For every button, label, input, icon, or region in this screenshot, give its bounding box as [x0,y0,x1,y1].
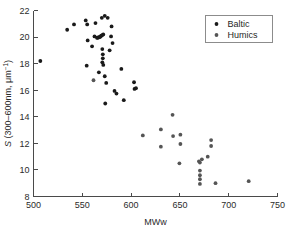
data-point [159,145,163,149]
data-point [209,144,213,148]
data-point [209,138,213,142]
data-point [103,102,107,106]
data-point [106,16,110,20]
caption-strip [0,234,296,242]
data-point [110,25,114,29]
data-point [85,64,89,68]
data-point [141,133,145,137]
data-point [200,157,204,161]
data-point [101,52,105,56]
y-tick-label: 14 [19,112,29,122]
data-point [111,41,115,45]
data-point [100,47,104,51]
series-baltic [38,14,137,105]
legend-marker-humics [215,33,219,37]
data-point [109,35,113,39]
figure-container: 500550600650700750810121416182022MWwS (3… [0,0,296,242]
data-point [92,78,96,82]
legend: BalticHumics [206,16,273,43]
data-point [198,173,202,177]
data-point [247,179,251,183]
data-point [198,177,202,181]
data-point [97,70,101,74]
data-point [171,134,175,138]
x-tick-label: 700 [221,200,236,210]
legend-label-baltic: Baltic [228,19,251,29]
data-point [101,63,105,67]
data-point [214,181,218,185]
data-point [119,67,123,71]
data-point [198,182,202,186]
data-point [171,113,175,117]
y-tick-label: 18 [19,59,29,69]
y-tick-label: 8 [24,192,29,202]
data-point [72,23,76,27]
y-axis-title-text: S (300–600nm, μm−1) [2,60,14,147]
y-tick-label: 16 [19,86,29,96]
data-point [122,98,126,102]
data-point [206,155,210,159]
data-point [84,19,88,23]
data-point [65,28,69,32]
data-point [198,169,202,173]
x-axis: 500550600650700750 [26,193,285,210]
data-point [159,128,163,132]
legend-label-humics: Humics [228,30,259,40]
y-tick-label: 10 [19,165,29,175]
x-axis-title: MWw [144,217,167,227]
data-point [103,74,107,78]
x-tick-label: 550 [75,200,90,210]
data-point [86,38,90,42]
data-point [178,133,182,137]
y-tick-label: 12 [19,139,29,149]
data-point [198,161,202,165]
data-point [38,59,42,63]
y-axis-title: S (300–600nm, μm−1) [2,60,14,147]
x-tick-label: 650 [172,200,187,210]
data-point [85,23,89,27]
data-point [101,33,105,37]
data-point [115,92,119,96]
y-tick-label: 22 [19,6,29,16]
data-point [101,56,105,60]
data-point [134,86,138,90]
data-point [94,21,98,25]
x-tick-label: 600 [124,200,139,210]
scatter-plot: 500550600650700750810121416182022MWwS (3… [0,0,296,242]
data-point [90,44,94,48]
y-tick-label: 20 [19,32,29,42]
data-point [178,161,182,165]
y-axis: 810121416182022 [19,6,37,202]
data-point [178,142,182,146]
x-tick-label: 750 [270,200,285,210]
data-point [104,81,108,85]
legend-marker-baltic [215,22,219,26]
data-point [108,48,112,52]
data-point [132,80,136,84]
